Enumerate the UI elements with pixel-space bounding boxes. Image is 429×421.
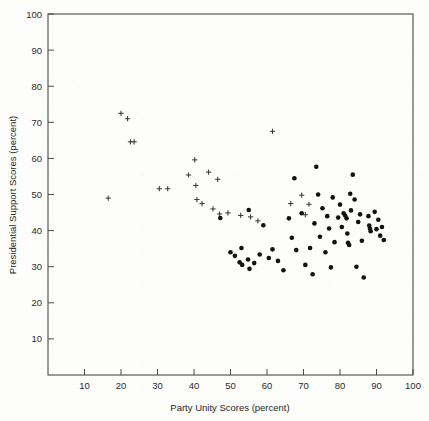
data-point-dot <box>320 206 325 211</box>
data-point-dot <box>368 229 373 234</box>
data-point-dot <box>344 216 349 221</box>
data-point-dot <box>292 176 297 181</box>
data-point-plus <box>255 218 260 223</box>
y-axis-ticks: 102030405060708090100 <box>26 9 54 345</box>
data-point-dot <box>366 214 371 219</box>
x-tick-label: 50 <box>225 380 236 391</box>
data-point-dot <box>270 247 275 252</box>
data-point-dot <box>332 240 337 245</box>
x-axis-ticks: 102030405060708090100 <box>79 369 421 391</box>
y-tick-label: 80 <box>31 81 42 92</box>
data-point-dot <box>287 216 292 221</box>
data-point-dot <box>382 238 387 243</box>
data-point-dot <box>314 164 319 169</box>
data-point-plus <box>157 186 162 191</box>
x-tick-label: 70 <box>298 380 309 391</box>
data-point-dot <box>312 221 317 226</box>
y-tick-label: 30 <box>31 261 42 272</box>
data-point-dot <box>261 223 266 228</box>
data-point-dot <box>374 227 379 232</box>
data-point-plus <box>132 139 137 144</box>
data-point-plus <box>206 170 211 175</box>
y-axis-title: Presidential Support Scores (percent) <box>7 116 18 274</box>
data-point-dot <box>276 259 281 264</box>
data-point-dot <box>349 208 354 213</box>
data-point-dot <box>316 192 321 197</box>
data-point-dot <box>348 191 353 196</box>
data-point-dot <box>329 265 334 270</box>
data-point-dot <box>372 210 377 215</box>
data-point-plus <box>186 172 191 177</box>
data-point-dot <box>330 195 335 200</box>
data-point-plus <box>299 193 304 198</box>
data-point-dot <box>247 267 252 272</box>
data-point-dot <box>378 233 383 238</box>
data-point-dot <box>350 172 355 177</box>
data-point-plus <box>288 201 293 206</box>
data-point-dot <box>327 226 332 231</box>
data-point-dot <box>281 268 286 273</box>
data-point-dot <box>246 257 251 262</box>
data-point-dot <box>267 256 272 261</box>
data-point-dot <box>299 211 304 216</box>
data-point-dot <box>310 272 315 277</box>
data-point-dot <box>338 202 343 207</box>
data-point-dot <box>290 236 295 241</box>
x-axis-title: Party Unity Scores (percent) <box>170 402 289 413</box>
data-point-plus <box>248 214 253 219</box>
y-tick-label: 60 <box>31 153 42 164</box>
scatter-plot-figure: 102030405060708090100 102030405060708090… <box>0 0 429 421</box>
data-point-dot <box>323 250 328 255</box>
data-point-dot <box>257 252 262 257</box>
y-tick-label: 20 <box>31 297 42 308</box>
x-tick-label: 90 <box>371 380 382 391</box>
data-point-plus <box>199 201 204 206</box>
x-tick-label: 80 <box>335 380 346 391</box>
x-tick-label: 40 <box>189 380 200 391</box>
data-point-dot <box>347 243 352 248</box>
data-point-dot <box>358 212 363 217</box>
data-point-dot <box>354 264 359 269</box>
data-point-plus <box>118 111 123 116</box>
data-points <box>106 111 386 280</box>
data-point-dot <box>340 225 345 230</box>
y-tick-label: 50 <box>31 189 42 200</box>
x-tick-label: 20 <box>116 380 127 391</box>
plot-canvas: 102030405060708090100 102030405060708090… <box>0 0 429 421</box>
y-tick-label: 10 <box>31 333 42 344</box>
data-point-dot <box>318 234 323 239</box>
data-point-dot <box>240 263 245 268</box>
data-point-dot <box>376 217 381 222</box>
data-point-dot <box>233 254 238 259</box>
data-point-plus <box>306 202 311 207</box>
data-point-dot <box>246 208 251 213</box>
data-point-dot <box>325 214 330 219</box>
data-point-plus <box>210 206 215 211</box>
y-tick-label: 100 <box>26 9 42 20</box>
data-point-dot <box>294 248 299 253</box>
data-point-plus <box>215 177 220 182</box>
data-point-plus <box>192 157 197 162</box>
data-point-dot <box>303 263 308 268</box>
data-point-plus <box>106 196 111 201</box>
data-point-dot <box>228 250 233 255</box>
data-point-dot <box>361 275 366 280</box>
data-point-plus <box>194 197 199 202</box>
data-point-plus <box>225 210 230 215</box>
x-tick-label: 30 <box>152 380 163 391</box>
data-point-plus <box>270 129 275 134</box>
x-tick-label: 100 <box>405 380 421 391</box>
data-point-dot <box>356 220 361 225</box>
x-tick-label: 60 <box>262 380 273 391</box>
data-point-plus <box>165 186 170 191</box>
data-point-plus <box>125 116 130 121</box>
data-point-dot <box>380 225 385 230</box>
data-point-dot <box>252 261 257 266</box>
data-point-dot <box>352 197 357 202</box>
x-tick-label: 10 <box>79 380 90 391</box>
data-point-dot <box>360 238 365 243</box>
data-point-dot <box>239 246 244 251</box>
data-point-dot <box>336 215 341 220</box>
data-point-dot <box>345 231 350 236</box>
data-point-plus <box>238 213 243 218</box>
